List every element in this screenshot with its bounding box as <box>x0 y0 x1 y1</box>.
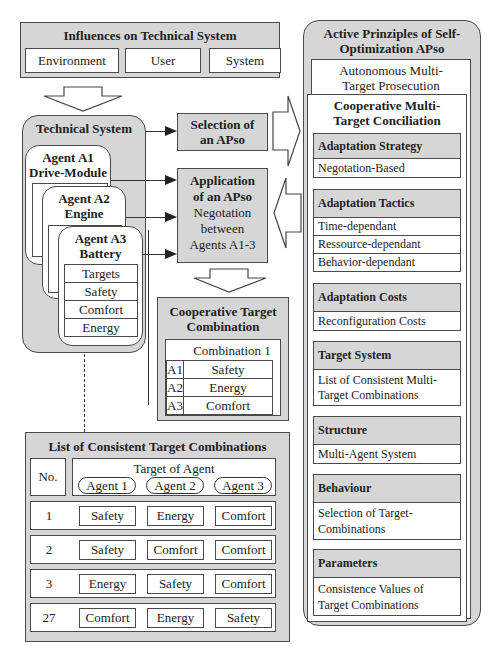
cooperative-card: Cooperative Multi- Target Conciliation A… <box>307 94 467 622</box>
combination-target: Safety <box>183 360 273 379</box>
down-arrow-icon <box>192 268 268 294</box>
left-arrow-icon <box>272 176 302 251</box>
selection-line2: an APso <box>178 132 267 148</box>
agent-1-pill: Agent 1 <box>78 477 136 494</box>
right-arrow-icon <box>272 94 302 169</box>
section-item: Reconfiguration Costs <box>313 311 461 331</box>
row-target: Comfort <box>215 574 272 594</box>
combination-table: Combination 1 A1 Safety A2 Energy A3 Com… <box>165 339 281 416</box>
combination-agent: A2 <box>166 378 184 397</box>
section-item-line: Consistence Values of <box>318 582 424 597</box>
list-row: 2 Safety Comfort Comfort <box>30 535 276 564</box>
section-item: List of Consistent Multi- Target Combina… <box>313 369 461 406</box>
target-of-agent-label: Target of Agent <box>73 461 275 477</box>
arrowhead-icon <box>165 212 177 222</box>
arrowhead-icon <box>165 249 177 259</box>
application-line3: Negotation <box>178 205 267 221</box>
section-structure-title: Structure <box>313 416 461 445</box>
agent-a2-role: Engine <box>43 206 125 222</box>
row-number: 2 <box>31 542 67 558</box>
application-box: Application of an APso Negotation betwee… <box>177 168 268 263</box>
influences-panel: Influences on Technical System Environme… <box>20 22 280 78</box>
cooperative-combination-title: Cooperative Target <box>158 304 288 320</box>
agent-card-a3: Agent A3 Battery Targets Safety Comfort … <box>58 226 143 346</box>
agent-a3-row: Comfort <box>64 300 138 319</box>
connector-line <box>143 254 166 255</box>
row-target: Safety <box>79 506 136 526</box>
agent-3-pill: Agent 3 <box>214 477 272 494</box>
combination-header: Combination 1 <box>184 343 280 359</box>
apso-title: Active Prinziples of Self- <box>304 26 480 42</box>
autonomous-label: Autonomous Multi- <box>312 63 470 79</box>
section-item-line: Selection of Target- <box>318 506 413 521</box>
cooperative-label: Cooperative Multi- <box>308 98 466 114</box>
section-item: Behavior-dependant <box>313 253 461 272</box>
down-arrow-icon <box>42 86 124 112</box>
list-target-header: Target of Agent Agent 1 Agent 2 Agent 3 <box>72 458 276 496</box>
agent-2-pill: Agent 2 <box>146 477 204 494</box>
technical-system-title: Technical System <box>23 121 145 137</box>
dashed-connector <box>84 354 85 432</box>
agent-a3-row: Safety <box>64 282 138 301</box>
list-row: 27 Comfort Energy Safety <box>30 603 276 632</box>
row-number: 3 <box>31 576 67 592</box>
list-no-header: No. <box>30 458 66 496</box>
row-target: Comfort <box>215 540 272 560</box>
row-target: Energy <box>147 506 204 526</box>
connector-vertical <box>148 230 149 405</box>
row-number: 1 <box>31 508 67 524</box>
section-adaptation-costs-title: Adaptation Costs <box>313 283 461 312</box>
combination-target: Comfort <box>183 396 273 415</box>
cooperative-combination-title: Combination <box>158 319 288 335</box>
list-row: 3 Energy Safety Comfort <box>30 569 276 598</box>
section-item-line: List of Consistent Multi- <box>318 373 437 388</box>
agent-a3-name: Agent A3 <box>59 231 142 247</box>
row-target: Energy <box>79 574 136 594</box>
arrowhead-icon <box>165 175 177 185</box>
agent-a3-row: Targets <box>64 264 138 283</box>
combination-target: Energy <box>183 378 273 397</box>
row-target: Comfort <box>215 506 272 526</box>
influence-environment: Environment <box>25 48 119 73</box>
connector-line <box>111 180 166 181</box>
section-item: Negotation-Based <box>313 158 461 178</box>
arrowhead-icon <box>165 126 177 136</box>
cooperative-label: Target Conciliation <box>308 113 466 129</box>
row-target: Comfort <box>79 608 136 628</box>
section-item-line: Target Combinations <box>318 388 419 403</box>
agent-a1-name: Agent A1 <box>26 150 110 166</box>
row-number: 27 <box>31 610 67 626</box>
influence-system: System <box>209 48 281 73</box>
section-adaptation-strategy-title: Adaptation Strategy <box>313 133 461 159</box>
section-behaviour-title: Behaviour <box>313 474 461 503</box>
connector-line <box>126 217 166 218</box>
agent-a1-role: Drive-Module <box>26 165 110 181</box>
section-parameters-title: Parameters <box>313 549 461 578</box>
connector-line <box>146 131 166 132</box>
combination-agent: A1 <box>166 360 184 379</box>
list-row: 1 Safety Energy Comfort <box>30 501 276 530</box>
row-target: Energy <box>147 608 204 628</box>
influence-user: User <box>125 48 201 73</box>
application-line4: between <box>178 221 267 237</box>
row-target: Comfort <box>147 540 204 560</box>
list-title: List of Consistent Target Combinations <box>26 439 289 455</box>
section-target-system-title: Target System <box>313 341 461 370</box>
apso-title: Optimization APso <box>304 41 480 57</box>
agent-a3-row: Energy <box>64 318 138 337</box>
apso-panel: Active Prinziples of Self- Optimization … <box>303 20 481 626</box>
section-item: Multi-Agent System <box>313 444 461 464</box>
section-item: Consistence Values of Target Combination… <box>313 577 461 616</box>
autonomous-label: Target Prosecution <box>312 78 470 94</box>
combination-agent: A3 <box>166 396 184 415</box>
section-item-line: Combinations <box>318 522 385 537</box>
section-item: Selection of Target- Combinations <box>313 502 461 540</box>
influences-title: Influences on Technical System <box>21 28 279 44</box>
section-item-line: Target Combinations <box>318 598 419 613</box>
application-line5: Agents A1-3 <box>178 237 267 253</box>
row-target: Safety <box>79 540 136 560</box>
section-item: Ressource-dependant <box>313 235 461 254</box>
row-target: Safety <box>147 574 204 594</box>
row-target: Safety <box>215 608 272 628</box>
agent-a2-name: Agent A2 <box>43 191 125 207</box>
